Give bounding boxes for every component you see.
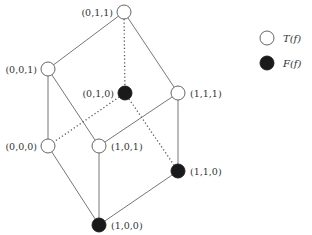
node-011: (0,1,1) [81, 5, 131, 19]
node-label: (0,0,0) [5, 141, 37, 152]
node-label: (0,0,1) [5, 64, 37, 75]
filled-circle-icon [118, 86, 132, 100]
node-110: (1,1,0) [171, 164, 222, 178]
open-circle-icon [41, 62, 55, 76]
open-circle-icon [41, 139, 55, 153]
node-label: (1,1,1) [190, 88, 222, 99]
open-circle-icon [117, 5, 131, 19]
legend-label-false: F(f) [282, 58, 302, 69]
node-001: (0,0,1) [5, 62, 55, 76]
legend-filled-circle-icon [260, 56, 274, 70]
edge-111-101 [105, 97, 172, 142]
node-101: (1,0,1) [92, 139, 143, 153]
edge-011-001 [54, 16, 119, 65]
open-circle-icon [92, 139, 106, 153]
edge-110-100 [105, 175, 172, 221]
node-100: (1,0,0) [92, 218, 143, 232]
node-label: (1,1,0) [190, 166, 222, 177]
edges-group [48, 16, 178, 221]
node-label: (0,1,0) [82, 88, 114, 99]
filled-circle-icon [92, 218, 106, 232]
edge-010-110 [129, 99, 174, 165]
node-010: (0,1,0) [82, 86, 132, 100]
node-label: (1,0,0) [111, 220, 143, 231]
open-circle-icon [171, 86, 185, 100]
edge-011-111 [128, 18, 174, 87]
filled-circle-icon [171, 164, 185, 178]
boolean-cube-diagram: (0,1,1)(0,0,1)(0,1,0)(1,1,1)(0,0,0)(1,0,… [0, 0, 312, 235]
legend-open-circle-icon [260, 31, 274, 45]
node-000: (0,0,0) [5, 139, 55, 153]
node-label: (1,0,1) [111, 141, 143, 152]
legend: T(f) F(f) [260, 31, 302, 70]
node-label: (0,1,1) [81, 7, 113, 18]
node-111: (1,1,1) [171, 86, 222, 100]
edge-000-100 [52, 152, 95, 219]
edge-011-010 [124, 19, 125, 86]
nodes-group: (0,1,1)(0,0,1)(0,1,0)(1,1,1)(0,0,0)(1,0,… [5, 5, 221, 232]
edge-010-000 [54, 97, 119, 142]
legend-label-true: T(f) [283, 33, 301, 44]
edge-001-101 [52, 75, 95, 140]
